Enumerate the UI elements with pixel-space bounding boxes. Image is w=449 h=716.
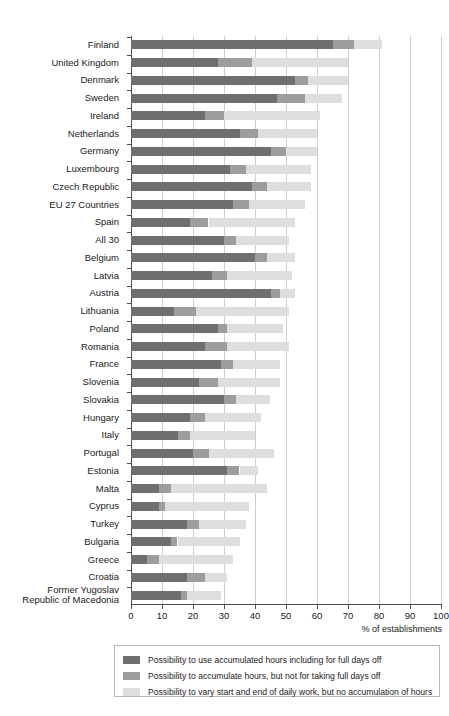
bar-segment-series0 bbox=[131, 236, 224, 245]
bar-segment-series2 bbox=[196, 307, 289, 316]
bar-segment-series1 bbox=[252, 182, 268, 191]
x-tick-20 bbox=[193, 604, 194, 609]
legend-label-series0: Possibility to use accumulated hours inc… bbox=[148, 655, 381, 665]
bar-row bbox=[131, 520, 441, 529]
bar-segment-series1 bbox=[218, 324, 227, 333]
x-tick-label-70: 70 bbox=[343, 610, 354, 621]
bar-segment-series2 bbox=[171, 484, 267, 493]
bar-segment-series2 bbox=[205, 413, 261, 422]
bar-row bbox=[131, 253, 441, 262]
bar-segment-series0 bbox=[131, 218, 190, 227]
bar-segment-series1 bbox=[224, 236, 236, 245]
y-label-finland: Finland bbox=[88, 40, 119, 50]
bar-segment-series2 bbox=[159, 555, 233, 564]
bar-row bbox=[131, 324, 441, 333]
x-tick-label-100: 100 bbox=[433, 610, 449, 621]
bar-segment-series0 bbox=[131, 395, 224, 404]
bar-row bbox=[131, 378, 441, 387]
bar-segment-series0 bbox=[131, 431, 178, 440]
y-label-belgium: Belgium bbox=[85, 253, 119, 263]
bar-segment-series1 bbox=[193, 449, 209, 458]
bar-segment-series1 bbox=[295, 76, 307, 85]
bar-segment-series2 bbox=[233, 360, 280, 369]
bar-segment-series0 bbox=[131, 253, 255, 262]
bar-segment-series1 bbox=[230, 165, 246, 174]
legend-item-series1: Possibility to accumulate hours, but not… bbox=[123, 668, 431, 683]
y-label-greece: Greece bbox=[88, 555, 119, 565]
bar-segment-series0 bbox=[131, 129, 240, 138]
y-label-ireland: Ireland bbox=[90, 111, 119, 121]
y-axis-category-labels: FinlandUnited KingdomDenmarkSwedenIrelan… bbox=[0, 36, 127, 604]
bar-row bbox=[131, 182, 441, 191]
bar-segment-series0 bbox=[131, 502, 159, 511]
y-label-czech-republic: Czech Republic bbox=[52, 182, 119, 192]
x-tick-0 bbox=[131, 604, 132, 609]
bar-segment-series1 bbox=[190, 413, 206, 422]
bar-segment-series1 bbox=[333, 40, 355, 49]
legend-label-series2: Possibility to vary start and end of dai… bbox=[148, 687, 432, 697]
y-label-malta: Malta bbox=[96, 484, 119, 494]
bar-segment-series2 bbox=[227, 271, 292, 280]
y-label-cyprus: Cyprus bbox=[89, 501, 119, 511]
bar-segment-series1 bbox=[271, 147, 287, 156]
bar-row bbox=[131, 466, 441, 475]
y-label-denmark: Denmark bbox=[80, 75, 119, 85]
x-tick-label-0: 0 bbox=[128, 610, 133, 621]
bar-segment-series1 bbox=[233, 200, 249, 209]
bar-segment-series1 bbox=[147, 555, 159, 564]
bar-segment-series0 bbox=[131, 555, 147, 564]
bar-segment-series1 bbox=[224, 395, 236, 404]
bar-segment-series2 bbox=[165, 502, 249, 511]
bar-segment-series2 bbox=[218, 378, 280, 387]
y-label-slovakia: Slovakia bbox=[83, 395, 119, 405]
y-label-bulgaria: Bulgaria bbox=[84, 537, 119, 547]
bar-segment-series1 bbox=[174, 307, 196, 316]
bar-segment-series0 bbox=[131, 573, 187, 582]
bar-row bbox=[131, 218, 441, 227]
y-label-italy: Italy bbox=[102, 430, 119, 440]
bar-row bbox=[131, 413, 441, 422]
bar-segment-series1 bbox=[190, 218, 209, 227]
bar-segment-series0 bbox=[131, 484, 159, 493]
bar-segment-series1 bbox=[187, 573, 206, 582]
bar-segment-series0 bbox=[131, 591, 181, 600]
bar-segment-series0 bbox=[131, 111, 205, 120]
bar-segment-series0 bbox=[131, 40, 333, 49]
bar-row bbox=[131, 40, 441, 49]
x-tick-label-30: 30 bbox=[219, 610, 230, 621]
bar-segment-series2 bbox=[305, 94, 342, 103]
legend-label-series1: Possibility to accumulate hours, but not… bbox=[148, 671, 380, 681]
y-label-latvia: Latvia bbox=[94, 271, 119, 281]
bar-segment-series1 bbox=[205, 342, 227, 351]
bar-segment-series2 bbox=[258, 129, 317, 138]
legend-item-series0: Possibility to use accumulated hours inc… bbox=[123, 652, 431, 667]
bar-segment-series0 bbox=[131, 520, 187, 529]
chart-legend: Possibility to use accumulated hours inc… bbox=[114, 645, 440, 697]
bar-segment-series1 bbox=[255, 253, 267, 262]
bar-segment-series0 bbox=[131, 307, 174, 316]
bar-segment-series2 bbox=[240, 466, 259, 475]
bar-row bbox=[131, 307, 441, 316]
y-label-lithuania: Lithuania bbox=[80, 306, 119, 316]
bar-segment-series2 bbox=[249, 200, 305, 209]
bar-segment-series0 bbox=[131, 466, 227, 475]
x-tick-10 bbox=[162, 604, 163, 609]
bar-row bbox=[131, 395, 441, 404]
bar-segment-series0 bbox=[131, 147, 271, 156]
bar-segment-series0 bbox=[131, 58, 218, 67]
bar-segment-series0 bbox=[131, 76, 295, 85]
bar-segment-series0 bbox=[131, 378, 199, 387]
x-tick-30 bbox=[224, 604, 225, 609]
bar-segment-series1 bbox=[240, 129, 259, 138]
bar-row bbox=[131, 200, 441, 209]
x-tick-40 bbox=[255, 604, 256, 609]
bar-segment-series2 bbox=[236, 395, 270, 404]
bar-segment-series2 bbox=[209, 218, 296, 227]
x-tick-label-80: 80 bbox=[374, 610, 385, 621]
bar-segment-series2 bbox=[199, 520, 246, 529]
y-label-sweden: Sweden bbox=[85, 93, 119, 103]
bar-segment-series2 bbox=[280, 289, 296, 298]
bar-segment-series1 bbox=[187, 520, 199, 529]
y-label-poland: Poland bbox=[89, 324, 119, 334]
